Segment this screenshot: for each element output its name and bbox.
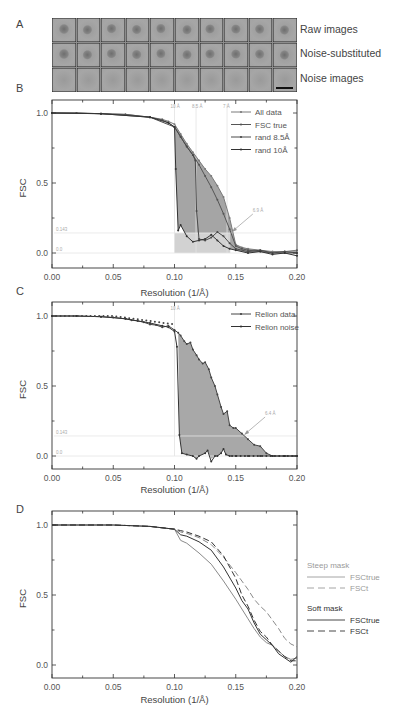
series-line — [52, 525, 297, 647]
y-tick-label: 0.0 — [36, 451, 48, 461]
series-line — [52, 525, 297, 661]
legend-entry: All data — [255, 108, 282, 117]
x-axis-title: Resolution (1/Å) — [140, 484, 208, 495]
legend-entry: FSCt — [350, 627, 369, 636]
x-tick-label: 0.15 — [227, 682, 244, 692]
resolution-annotation: 6.4 Å — [265, 410, 276, 416]
x-tick-label: 0.20 — [289, 473, 306, 483]
legend-entry: rand 8.5Å — [255, 133, 290, 142]
x-axis-title: Resolution (1/Å) — [140, 287, 208, 298]
y-tick-label: 1.0 — [36, 311, 48, 321]
legend-entry: rand 10Å — [255, 146, 288, 155]
legend-entry: FSCtrue — [350, 573, 380, 582]
legend-entry: FSC true — [255, 121, 288, 130]
resolution-marker-label: 8.5 Å — [192, 103, 203, 109]
y-tick-label: 0.0 — [36, 660, 48, 670]
chart-b: 10 Å8.5 Å7 Å0.1430.06.9 Å0.000.050.100.1… — [17, 100, 306, 298]
x-tick-label: 0.00 — [44, 272, 61, 282]
resolution-marker-label: 7 Å — [223, 103, 230, 109]
x-tick-label: 0.05 — [105, 682, 122, 692]
legend-entry: Relion noise — [255, 323, 300, 332]
x-tick-label: 0.20 — [289, 272, 306, 282]
legend-entry: FSCt — [350, 584, 369, 593]
y-axis-title: FSC — [17, 178, 28, 197]
plot-frame — [52, 511, 297, 678]
threshold-label: 0.143 — [56, 227, 68, 232]
threshold-label: 0.143 — [56, 430, 68, 435]
legend-entry: Relion data — [255, 310, 296, 319]
y-tick-label: 0.5 — [36, 178, 48, 188]
x-tick-label: 0.05 — [105, 272, 122, 282]
resolution-annotation: 6.9 Å — [253, 207, 264, 213]
x-tick-label: 0.00 — [44, 473, 61, 483]
x-tick-label: 0.15 — [227, 473, 244, 483]
legend-group-title: Soft mask — [307, 604, 344, 613]
y-tick-label: 0.0 — [36, 248, 48, 258]
series-line — [52, 525, 297, 659]
chart-c: 10 Å0.1430.06.4 Å0.000.050.100.150.200.0… — [17, 302, 306, 495]
y-tick-label: 1.0 — [36, 108, 48, 118]
y-axis-title: FSC — [17, 380, 28, 399]
threshold-label: 0.0 — [56, 247, 63, 252]
legend-entry: FSCtrue — [350, 616, 380, 625]
resolution-marker-label: 10 Å — [171, 103, 180, 109]
x-tick-label: 0.20 — [289, 682, 306, 692]
x-tick-label: 0.15 — [227, 272, 244, 282]
fsc-charts: 10 Å8.5 Å7 Å0.1430.06.9 Å0.000.050.100.1… — [0, 0, 397, 720]
x-axis-title: Resolution (1/Å) — [140, 694, 208, 705]
x-tick-label: 0.10 — [166, 473, 183, 483]
y-tick-label: 1.0 — [36, 520, 48, 530]
threshold-label: 0.0 — [56, 450, 63, 455]
legend-group-title: Steep mask — [307, 561, 350, 570]
x-tick-label: 0.00 — [44, 682, 61, 692]
chart-d: 0.000.050.100.150.200.00.51.0Resolution … — [17, 511, 380, 705]
resolution-marker-label: 10 Å — [171, 305, 180, 311]
x-tick-label: 0.05 — [105, 473, 122, 483]
y-axis-title: FSC — [17, 589, 28, 608]
x-tick-label: 0.10 — [166, 682, 183, 692]
series-line — [52, 525, 297, 662]
x-tick-label: 0.10 — [166, 272, 183, 282]
y-tick-label: 0.5 — [36, 381, 48, 391]
y-tick-label: 0.5 — [36, 590, 48, 600]
